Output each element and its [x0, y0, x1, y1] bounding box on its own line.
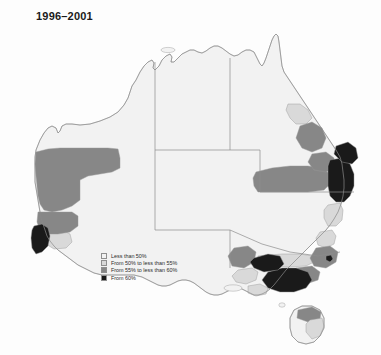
island-king [279, 303, 285, 307]
legend-label-50-55: From 50% to less than 55% [111, 260, 177, 266]
legend-label-55-60: From 55% to less than 60% [111, 267, 177, 273]
legend-swatch-50-55 [101, 260, 107, 266]
legend-swatch-55-60 [101, 267, 107, 273]
legend-item-0: Less than 50% [101, 252, 197, 259]
legend-label-lt50: Less than 50% [111, 253, 147, 259]
island-melville [161, 47, 175, 52]
legend-item-3: From 60% [101, 274, 197, 281]
choropleth-map [0, 0, 381, 355]
region-qld-southeast-dark [328, 158, 354, 202]
region-vic-melbourne-dark [262, 268, 312, 292]
legend-swatch-gte60 [101, 275, 107, 281]
region-nsw-south-gray [310, 246, 338, 268]
region-wa-perth-dark [31, 224, 50, 254]
legend-label-gte60: From 60% [111, 275, 136, 281]
map-page: 1996–2001 [0, 0, 381, 355]
legend-item-2: From 55% to less than 60% [101, 267, 197, 274]
australia-map-svg [0, 0, 381, 355]
tasmania-island [290, 306, 324, 344]
map-legend: Less than 50% From 50% to less than 55% … [101, 252, 197, 282]
island-kangaroo [224, 285, 242, 291]
legend-item-1: From 50% to less than 55% [101, 259, 197, 266]
legend-swatch-lt50 [101, 253, 107, 259]
